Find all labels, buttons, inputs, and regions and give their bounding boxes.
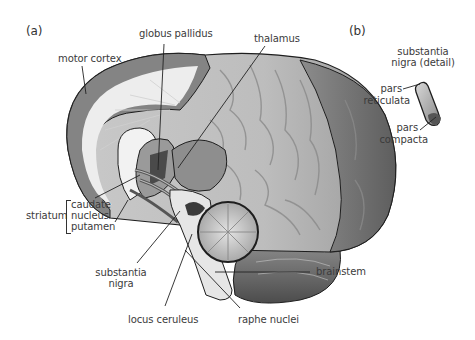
label-substantia-nigra-line2: nigra <box>86 278 156 289</box>
figure: (a) (b) motor cortex globus pallidus tha… <box>0 0 475 340</box>
label-caudate: caudate <box>71 199 111 210</box>
cerebellum <box>198 202 258 262</box>
label-raphe-nuclei: raphe nuclei <box>238 314 299 325</box>
panel-b-label: (b) <box>349 26 366 37</box>
label-pars-reticulata-line2: reticulata <box>352 95 410 106</box>
label-sn-detail-line1: substantia <box>383 46 463 57</box>
label-substantia-nigra-line1: substantia <box>86 267 156 278</box>
label-sn-detail-line2: nigra (detail) <box>383 57 463 68</box>
substantia-nigra-detail <box>415 82 441 125</box>
label-pars-compacta-line2: compacta <box>360 134 428 145</box>
label-thalamus: thalamus <box>254 33 300 44</box>
label-pars-reticulata-line1: pars <box>352 83 402 94</box>
label-nucleus: nucleus <box>71 210 109 221</box>
label-locus-ceruleus: locus ceruleus <box>128 314 198 325</box>
label-brainstem: brainstem <box>316 266 366 277</box>
label-striatum: striatum <box>26 210 67 221</box>
label-pars-compacta-line1: pars <box>360 122 418 133</box>
label-motor-cortex: motor cortex <box>58 53 122 64</box>
panel-a-label: (a) <box>26 26 42 37</box>
label-putamen: putamen <box>71 221 115 232</box>
label-globus-pallidus: globus pallidus <box>139 28 213 39</box>
